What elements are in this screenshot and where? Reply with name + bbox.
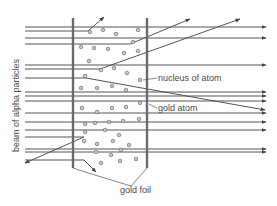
gold-atom-dot (125, 71, 129, 75)
gold-atom-dot (111, 139, 115, 143)
gold-atom-dot (127, 143, 131, 147)
beam-label: beam of alpha particles (11, 58, 21, 152)
gold-atom-dot (109, 153, 113, 157)
gold-atom-dot (93, 121, 97, 125)
gold-atom-dot (112, 66, 116, 70)
gold-atom-dot (124, 88, 128, 92)
gold-atom-dot (117, 133, 121, 137)
gold-atom-dot (83, 74, 87, 78)
gold-foil (73, 18, 147, 168)
gold-atom-dot (83, 130, 87, 134)
gold-atom-dot (138, 101, 142, 105)
alpha-path-backscatter (25, 137, 84, 163)
gold-atom-dot (95, 86, 99, 90)
gold-atom-dot (134, 157, 138, 161)
gold-atom-dot (79, 86, 83, 90)
gold-atom-dot (107, 120, 111, 124)
gold-atom-dot (124, 105, 128, 109)
nucleus-leader-line (143, 78, 157, 80)
gold-atom-leader-line (149, 104, 157, 108)
gold-atom-dot (79, 45, 83, 49)
gold-atom-dot (80, 106, 84, 110)
gold-atom-dot (137, 117, 141, 121)
gold-atom-dot (95, 142, 99, 146)
gold-foil-leader-line (73, 168, 147, 186)
gold-atom-dot (103, 128, 107, 132)
gold-atom-dot (118, 159, 122, 163)
alpha-path-large-deflection-down (25, 160, 96, 172)
gold-atom-dot (119, 148, 123, 152)
gold-atom-dot (136, 49, 140, 53)
gold-atom-dot (110, 106, 114, 110)
gold-atom-dot (106, 47, 110, 51)
gold-atom-dot (122, 51, 126, 55)
alpha-path-small-deflection-down (25, 78, 265, 110)
gold-atom-dot (82, 139, 86, 143)
gold-atom-dot (114, 32, 118, 36)
gold-foil-label: gold foil (120, 185, 151, 195)
straight-alpha-beams (25, 27, 266, 152)
gold-atom-dot (87, 59, 91, 63)
gold-atom-dot (95, 110, 99, 114)
gold-atom-dot (136, 28, 140, 32)
gold-atom-dot (131, 40, 135, 44)
gold-atom-dot (99, 68, 103, 72)
gold-atom-dot (138, 78, 142, 82)
gold-atom-dot (83, 122, 87, 126)
gold-atom-dot (88, 30, 92, 34)
gold-atom-dot (110, 84, 114, 88)
gold-atom-dot (92, 46, 96, 50)
gold-atom-label: gold atom (158, 103, 198, 113)
gold-atom-dot (99, 161, 103, 165)
gold-atom-dot (121, 119, 125, 123)
rutherford-scattering-diagram: nucleus of atom gold atom gold foil beam… (0, 0, 277, 206)
alpha-path-large-deflection-up (25, 17, 104, 31)
gold-atom-dot (94, 150, 98, 154)
nucleus-label: nucleus of atom (158, 73, 222, 83)
gold-atom-dot (101, 28, 105, 32)
